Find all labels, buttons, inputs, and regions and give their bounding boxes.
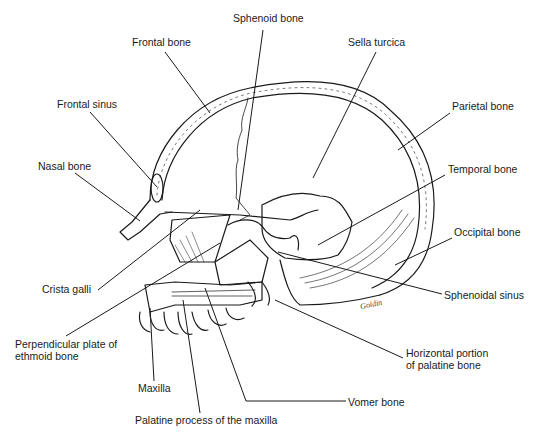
label-perpendicular-plate: Perpendicular plate of ethmoid bone — [15, 338, 117, 362]
label-parietal-bone: Parietal bone — [452, 100, 514, 112]
label-temporal-bone: Temporal bone — [448, 163, 517, 175]
leader-sphenoidal-sinus — [278, 252, 442, 294]
nasal-bone-shape — [120, 200, 172, 240]
leader-palatine-process — [183, 300, 200, 413]
label-occipital-bone: Occipital bone — [454, 226, 521, 238]
cranial-vault-outer — [150, 82, 434, 295]
frontal-sinus-shape — [151, 174, 163, 202]
label-sphenoidal-sinus: Sphenoidal sinus — [444, 289, 524, 301]
label-maxilla: Maxilla — [138, 382, 171, 394]
leader-occipital-bone — [395, 238, 452, 265]
leader-nasal-bone — [75, 173, 140, 221]
label-horizontal-palatine: Horizontal portion of palatine bone — [406, 347, 488, 371]
label-frontal-bone: Frontal bone — [132, 36, 191, 48]
leader-maxilla — [150, 308, 154, 381]
leader-horizontal-palatine — [275, 300, 403, 358]
temporal-bone-shape — [262, 193, 352, 259]
label-sphenoid-bone: Sphenoid bone — [233, 12, 304, 24]
maxilla-shape — [145, 282, 262, 312]
skull-illustration — [0, 0, 545, 443]
teeth — [139, 308, 244, 334]
leader-frontal-sinus — [90, 112, 157, 187]
leader-sphenoid-bone — [238, 30, 263, 210]
label-vomer-bone: Vomer bone — [348, 396, 405, 408]
leader-lines — [66, 30, 452, 413]
leader-frontal-bone — [165, 52, 210, 113]
label-palatine-process: Palatine process of the maxilla — [135, 414, 277, 426]
skull-diagram: Sphenoid bone Frontal bone Sella turcica… — [0, 0, 545, 443]
label-frontal-sinus: Frontal sinus — [57, 98, 117, 110]
label-nasal-bone: Nasal bone — [38, 160, 91, 172]
leader-temporal-bone — [318, 175, 445, 245]
leader-crista-galli — [98, 210, 200, 290]
leader-parietal-bone — [398, 113, 450, 150]
label-sella-turcica: Sella turcica — [348, 36, 405, 48]
leader-sella-turcica — [313, 52, 376, 178]
vomer-shape — [215, 240, 268, 285]
label-crista-galli: Crista galli — [42, 283, 91, 295]
